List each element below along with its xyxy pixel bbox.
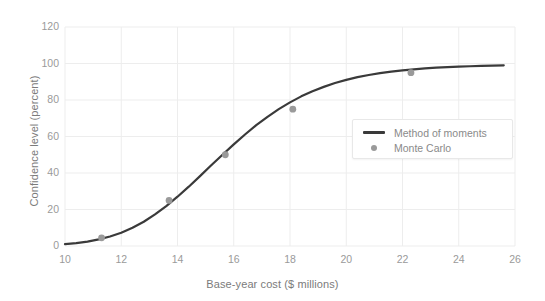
chart-legend: Method of moments Monte Carlo [352,119,513,159]
x-tick-26: 26 [495,253,535,265]
y-tick-40: 40 [25,166,59,178]
dot-swatch-icon [361,140,387,155]
legend-item-monte-carlo: Monte Carlo [361,140,504,155]
cropped-title-remnant [0,0,545,7]
legend-label-monte-carlo: Monte Carlo [394,142,451,154]
cropped-title-text [22,0,25,3]
y-tick-80: 80 [25,93,59,105]
legend-label-method-of-moments: Method of moments [394,127,487,139]
legend-item-method-of-moments: Method of moments [361,125,504,140]
x-tick-24: 24 [439,253,479,265]
y-tick-100: 100 [25,57,59,69]
y-tick-20: 20 [25,203,59,215]
x-axis-label: Base-year cost ($ millions) [0,278,545,290]
line-swatch-icon [361,125,387,140]
x-tick-22: 22 [383,253,423,265]
x-tick-16: 16 [214,253,254,265]
x-tick-12: 12 [101,253,141,265]
x-tick-18: 18 [270,253,310,265]
y-tick-120: 120 [25,20,59,32]
x-tick-14: 14 [158,253,198,265]
chart-figure: Confidence level (percent) Base-year cos… [0,0,545,301]
y-tick-60: 60 [25,130,59,142]
y-tick-0: 0 [25,239,59,251]
x-tick-10: 10 [45,253,85,265]
x-tick-20: 20 [326,253,366,265]
